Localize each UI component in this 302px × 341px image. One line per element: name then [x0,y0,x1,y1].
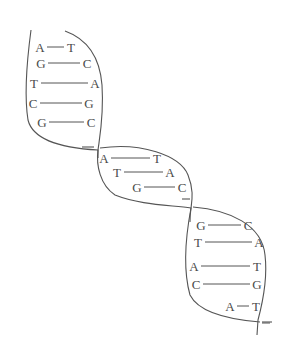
strand-1-segment-top [26,30,270,323]
base-right: G [84,96,93,111]
base-pair: GC [196,218,252,233]
base-pair: CG [192,277,262,292]
dna-helix-diagram: ATGCTACGGCATTAGCGCTAATCGAT [0,0,302,341]
base-right: T [252,299,260,314]
base-left: G [37,115,46,130]
base-left: G [196,218,205,233]
base-left: C [29,96,38,111]
base-pair: GC [37,115,95,130]
base-left: T [194,235,202,250]
base-left: A [225,299,235,314]
base-left: C [192,277,201,292]
base-right: G [252,277,261,292]
base-left: A [99,151,109,166]
base-right: A [254,235,264,250]
base-pair: GC [36,56,91,71]
base-right: T [153,151,161,166]
base-pair: TA [113,165,175,180]
base-pair: GC [132,180,186,195]
base-pair: TA [194,235,264,250]
base-right: C [83,56,92,71]
helix-strands: ATGCTACGGCATTAGCGCTAATCGAT [0,0,302,341]
base-left: G [36,56,45,71]
base-right: T [253,259,261,274]
base-pair: AT [99,151,161,166]
base-left: T [30,76,38,91]
base-left: G [132,180,141,195]
base-pair: AT [35,40,75,55]
base-left: A [35,40,45,55]
base-right: A [90,76,100,91]
base-pairs: ATGCTACGGCATTAGCGCTAATCGAT [29,40,265,314]
base-right: C [178,180,187,195]
base-right: A [165,165,175,180]
base-pair: AT [225,299,260,314]
base-left: T [113,165,121,180]
base-right: T [67,40,75,55]
base-left: A [189,259,199,274]
base-pair: AT [189,259,261,274]
base-right: C [244,218,253,233]
base-pair: CG [29,96,94,111]
base-right: C [87,115,96,130]
base-pair: TA [30,76,100,91]
